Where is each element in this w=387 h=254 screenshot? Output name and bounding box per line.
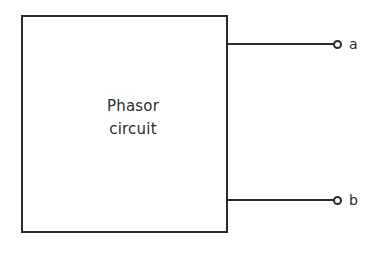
block-label-line-1: Phasor (83, 95, 183, 118)
phasor-circuit-block-label: Phasor circuit (83, 95, 183, 141)
terminal-label-b: b (349, 193, 358, 207)
block-label-line-2: circuit (83, 118, 183, 141)
circuit-diagram-canvas: Phasor circuit a b (0, 0, 387, 254)
lead-wire-b (227, 199, 335, 201)
open-circle-terminal-icon-b (333, 196, 342, 205)
open-circle-terminal-icon-a (333, 40, 342, 49)
lead-wire-a (227, 43, 335, 45)
phasor-circuit-block: Phasor circuit (21, 15, 228, 233)
terminal-label-a: a (349, 37, 358, 51)
